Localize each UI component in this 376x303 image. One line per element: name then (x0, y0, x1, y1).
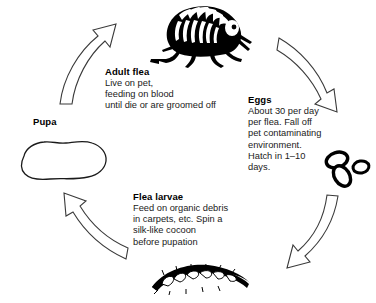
pupa-heading: Pupa (33, 116, 57, 128)
flea-life-cycle-diagram: Adult flea Live on pet, feeding on blood… (0, 0, 376, 303)
stage-label-pupa: Pupa (33, 116, 57, 128)
flea-eggs-illustration (322, 148, 372, 192)
flea-larvae-description: Feed on organic debris in carpets, etc. … (133, 203, 228, 248)
adult-flea-heading: Adult flea (105, 66, 216, 78)
pupa-cocoon-illustration (6, 134, 114, 186)
stage-label-adult-flea: Adult flea Live on pet, feeding on blood… (105, 66, 216, 112)
flea-larva-illustration (146, 263, 254, 297)
arrow-eggs-to-larvae-icon (287, 195, 338, 268)
eggs-description: About 30 per day per flea. Fall off pet … (248, 106, 321, 173)
flea-larvae-heading: Flea larvae (133, 191, 228, 203)
eggs-heading: Eggs (248, 94, 321, 106)
adult-flea-description: Live on pet, feeding on blood until die … (105, 78, 216, 112)
adult-flea-illustration (146, 2, 252, 70)
stage-label-flea-larvae: Flea larvae Feed on organic debris in ca… (133, 191, 228, 248)
stage-label-eggs: Eggs About 30 per day per flea. Fall off… (248, 94, 321, 173)
arrow-larvae-to-pupa-icon (64, 193, 128, 259)
